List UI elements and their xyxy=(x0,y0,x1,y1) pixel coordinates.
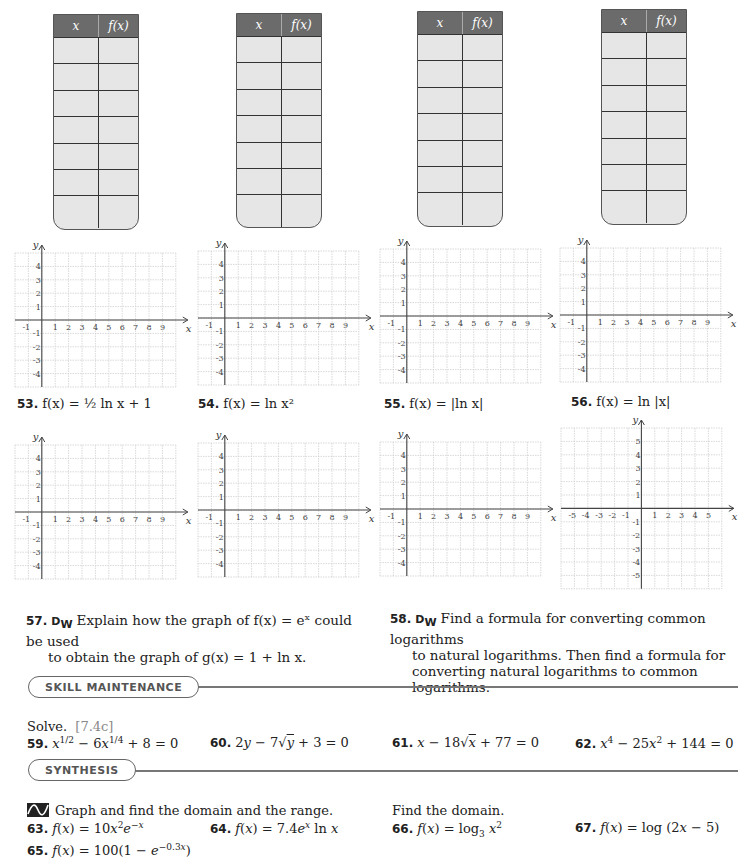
discussion-writing-icon: DW xyxy=(415,613,436,626)
svg-text:-1: -1 xyxy=(216,519,224,528)
problem-57: 57.DWExplain how the graph of f(x) = eˣ … xyxy=(26,612,356,665)
svg-text:7: 7 xyxy=(498,512,503,521)
svg-text:4: 4 xyxy=(581,257,586,266)
table-row[interactable] xyxy=(237,89,321,115)
svg-text:-4: -4 xyxy=(216,560,224,569)
svg-text:3: 3 xyxy=(219,274,224,283)
table-row[interactable] xyxy=(602,85,686,111)
svg-text:2: 2 xyxy=(431,512,436,521)
problem-67: 67.f(x) = log (2x − 5) xyxy=(575,820,719,835)
table-row[interactable] xyxy=(418,192,502,225)
table-row[interactable] xyxy=(602,138,686,164)
svg-text:1: 1 xyxy=(36,495,41,504)
svg-text:4: 4 xyxy=(401,451,406,460)
svg-text:3: 3 xyxy=(581,271,586,280)
svg-text:1: 1 xyxy=(418,319,423,328)
svg-text:5: 5 xyxy=(471,512,476,521)
section-divider xyxy=(124,770,738,772)
table-row[interactable] xyxy=(54,63,138,89)
table-row[interactable] xyxy=(418,166,502,192)
svg-text:1: 1 xyxy=(581,298,586,307)
svg-text:5: 5 xyxy=(471,319,476,328)
svg-text:-1: -1 xyxy=(567,318,575,327)
table-row[interactable] xyxy=(54,90,138,116)
svg-text:7: 7 xyxy=(316,321,321,330)
table-row[interactable] xyxy=(602,190,686,223)
svg-text:y: y xyxy=(215,237,222,248)
svg-text:3: 3 xyxy=(401,465,406,474)
svg-text:2: 2 xyxy=(66,515,71,524)
svg-text:1: 1 xyxy=(53,323,58,332)
svg-text:2: 2 xyxy=(401,285,406,294)
svg-text:3: 3 xyxy=(263,321,268,330)
svg-text:3: 3 xyxy=(625,318,630,327)
svg-text:-3: -3 xyxy=(398,352,406,361)
svg-text:-4: -4 xyxy=(216,368,224,377)
table-row[interactable] xyxy=(54,116,138,142)
table-row[interactable] xyxy=(418,34,502,60)
header-fx: f(x) xyxy=(99,15,138,37)
svg-text:-3: -3 xyxy=(33,548,41,557)
svg-text:5: 5 xyxy=(289,513,294,522)
table-row[interactable] xyxy=(237,36,321,62)
table-row[interactable] xyxy=(54,37,138,63)
synthesis-heading: SYNTHESIS xyxy=(28,759,136,781)
svg-text:4: 4 xyxy=(93,323,98,332)
svg-text:4: 4 xyxy=(276,321,281,330)
svg-text:6: 6 xyxy=(303,513,308,522)
svg-text:-1: -1 xyxy=(398,325,406,334)
svg-text:-2: -2 xyxy=(632,531,640,540)
svg-text:-1: -1 xyxy=(398,518,406,527)
svg-text:3: 3 xyxy=(445,319,450,328)
svg-text:-3: -3 xyxy=(398,545,406,554)
table-row[interactable] xyxy=(237,62,321,88)
svg-text:9: 9 xyxy=(525,512,530,521)
svg-text:9: 9 xyxy=(343,321,348,330)
table-row[interactable] xyxy=(237,142,321,168)
svg-text:4: 4 xyxy=(219,260,224,269)
svg-text:x: x xyxy=(186,323,192,334)
table-row[interactable] xyxy=(237,115,321,141)
svg-text:3: 3 xyxy=(80,515,85,524)
svg-text:y: y xyxy=(32,239,39,250)
svg-text:-4: -4 xyxy=(582,511,590,520)
svg-text:2: 2 xyxy=(36,289,41,298)
header-fx: f(x) xyxy=(647,10,686,32)
svg-text:5: 5 xyxy=(106,323,111,332)
problem-63: 63.f(x) = 10x2e−x xyxy=(27,820,144,836)
table-row[interactable] xyxy=(602,58,686,84)
svg-text:9: 9 xyxy=(160,515,165,524)
graph-58-blank: -11234567894321-1-2-3-4xy xyxy=(198,443,379,581)
table-row[interactable] xyxy=(602,111,686,137)
table-row[interactable] xyxy=(418,87,502,113)
table-row[interactable] xyxy=(54,143,138,169)
svg-text:1: 1 xyxy=(652,511,657,520)
table-row[interactable] xyxy=(237,168,321,194)
section-divider xyxy=(186,686,738,688)
table-row[interactable] xyxy=(418,140,502,166)
table-row[interactable] xyxy=(237,194,321,227)
svg-text:-3: -3 xyxy=(216,546,224,555)
svg-text:-1: -1 xyxy=(632,518,640,527)
svg-text:3: 3 xyxy=(36,276,41,285)
svg-text:y: y xyxy=(577,234,584,245)
svg-text:5: 5 xyxy=(651,318,656,327)
svg-text:-4: -4 xyxy=(398,559,406,568)
problem-65: 65.f(x) = 100(1 − e−0.3x) xyxy=(27,842,191,858)
table-row[interactable] xyxy=(54,195,138,228)
table-row[interactable] xyxy=(54,169,138,195)
svg-text:9: 9 xyxy=(705,318,710,327)
svg-text:3: 3 xyxy=(679,511,684,520)
svg-text:y: y xyxy=(631,414,638,425)
table-row[interactable] xyxy=(602,164,686,190)
table-row[interactable] xyxy=(418,113,502,139)
svg-text:7: 7 xyxy=(133,515,138,524)
problem-66: 66.f(x) = log3 x2 xyxy=(392,820,502,839)
table-row[interactable] xyxy=(602,32,686,58)
svg-text:-4: -4 xyxy=(398,366,406,375)
svg-text:1: 1 xyxy=(401,299,406,308)
table-row[interactable] xyxy=(418,60,502,86)
svg-text:5: 5 xyxy=(106,515,111,524)
header-x: x xyxy=(237,14,282,36)
svg-text:6: 6 xyxy=(120,515,125,524)
